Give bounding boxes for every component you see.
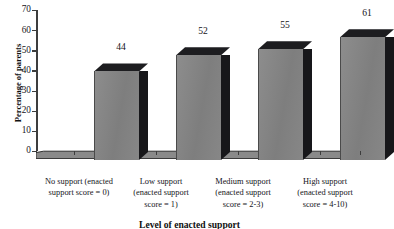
bar-side-face — [385, 37, 394, 160]
y-axis-tick-label: 50 — [1, 46, 31, 55]
bar-3 — [258, 49, 303, 160]
y-axis-tick-label: 70 — [1, 5, 31, 14]
y-axis-tick-label: 30 — [1, 86, 31, 95]
y-axis-tick-label: 40 — [1, 66, 31, 75]
x-axis-title: Level of enacted support — [0, 219, 379, 229]
x-axis-tick — [320, 151, 321, 155]
y-axis-tick — [32, 10, 37, 11]
y-axis-tick — [32, 131, 37, 132]
bar-2 — [176, 55, 221, 160]
plot-area: 706050403020100 44525561 No support (ena… — [36, 10, 371, 160]
y-axis-tick — [32, 50, 37, 51]
x-axis-tick — [360, 151, 361, 155]
y-axis-tick-label: 10 — [1, 126, 31, 135]
bar-1 — [94, 71, 139, 160]
x-axis-category-4: High support(enacted supportscore = 4-10… — [277, 176, 373, 210]
bar-side-face — [221, 55, 230, 160]
bar-front-face — [258, 49, 303, 160]
y-axis-tick — [32, 30, 37, 31]
x-axis-category-line: score = 4-10) — [277, 199, 373, 210]
y-axis-tick-label: 60 — [1, 26, 31, 35]
bar-side-face — [303, 49, 312, 160]
y-axis-tick — [32, 111, 37, 112]
bar-value-label-2: 52 — [181, 26, 225, 36]
bar-top-face — [94, 63, 148, 71]
y-axis-tick-label: 0 — [1, 146, 31, 155]
y-axis-tick — [32, 91, 37, 92]
bar-top-face — [258, 41, 312, 49]
x-axis-category-line: High support — [277, 176, 373, 187]
bar-front-face — [176, 55, 221, 160]
bar-value-label-4: 61 — [345, 8, 389, 18]
x-axis-tick — [238, 151, 239, 155]
x-axis-category-line: (enacted support — [277, 187, 373, 198]
y-axis-tick-label: 20 — [1, 106, 31, 115]
bar-front-face — [340, 37, 385, 160]
bar-front-face — [94, 71, 139, 160]
bar-value-label-1: 44 — [99, 42, 143, 52]
bar-value-label-3: 55 — [263, 20, 307, 30]
bar-4 — [340, 37, 385, 160]
bar-side-face — [139, 71, 148, 160]
x-axis-tick — [74, 151, 75, 155]
y-axis-tick — [32, 70, 37, 71]
bar-top-face — [176, 47, 230, 55]
x-axis-tick — [156, 151, 157, 155]
bar-top-face — [340, 29, 394, 37]
